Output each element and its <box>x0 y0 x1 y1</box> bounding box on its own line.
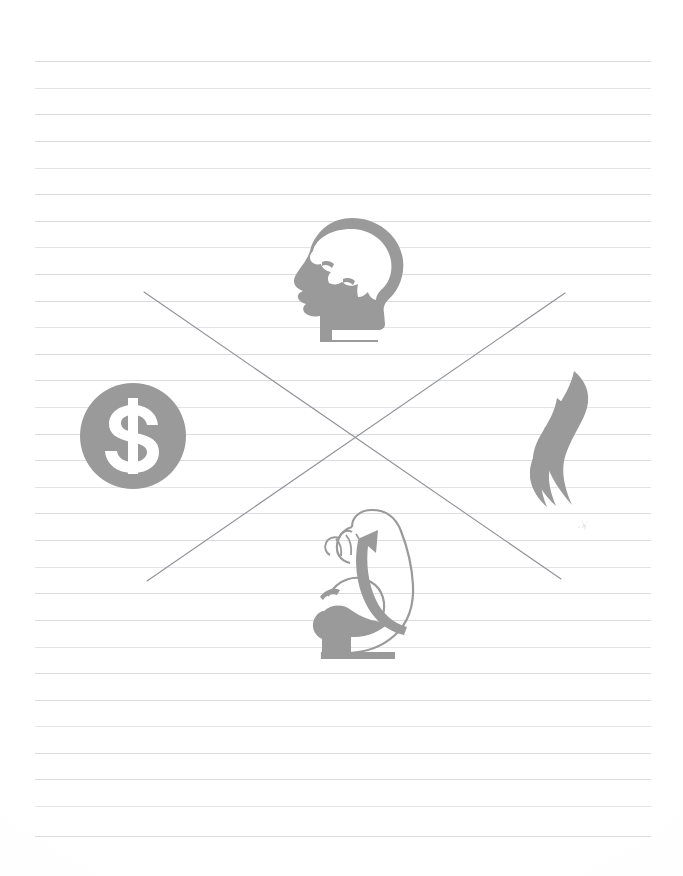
head-brain-glyph <box>292 216 408 342</box>
flame-glyph <box>530 370 598 508</box>
scanned-page <box>0 0 683 876</box>
dollar-sign-icon <box>79 382 187 490</box>
bicep-crescent-detail <box>320 589 340 600</box>
scan-smudge <box>575 518 591 534</box>
head-brain-icon <box>292 216 408 342</box>
dollar-coin-glyph <box>79 382 187 490</box>
icon-group <box>0 0 683 876</box>
flexed-bicep-glyph <box>300 505 428 660</box>
flexed-bicep-icon <box>300 505 428 660</box>
flame-icon <box>530 370 598 508</box>
